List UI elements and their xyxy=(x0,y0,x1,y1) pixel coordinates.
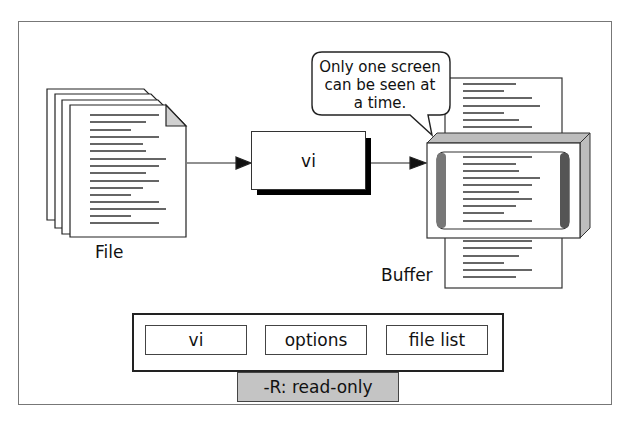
option-detail-read-only: -R: read-only xyxy=(237,372,399,402)
arrow-vi-to-buffer-icon xyxy=(371,157,426,169)
command-segment-vi: vi xyxy=(145,325,247,355)
command-segment-file-list: file list xyxy=(386,325,488,355)
file-stack-icon xyxy=(47,89,186,237)
callout-line-1: Only one screen xyxy=(316,58,444,76)
callout-text: Only one screen can be seen at a time. xyxy=(316,58,444,112)
buffer-label: Buffer xyxy=(381,265,433,285)
arrow-file-to-vi-icon xyxy=(187,157,251,169)
file-label: File xyxy=(95,242,123,262)
callout-line-3: a time. xyxy=(316,94,444,112)
command-segment-options: options xyxy=(265,325,367,355)
callout-line-2: can be seen at xyxy=(316,76,444,94)
monitor-icon xyxy=(427,133,590,238)
vi-program-box: vi xyxy=(251,131,366,190)
